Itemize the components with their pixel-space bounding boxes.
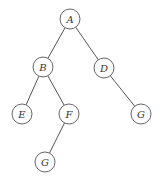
node-d: D <box>94 58 114 78</box>
node-e: E <box>12 104 32 124</box>
node-label: E <box>17 109 26 120</box>
node-label: F <box>65 109 74 120</box>
edge-d-g1 <box>110 76 134 106</box>
node-label: B <box>38 62 46 73</box>
tree-diagram: ABDEFGG <box>0 0 162 181</box>
edge-a-d <box>76 27 99 60</box>
edge-b-e <box>26 76 39 105</box>
node-label: A <box>65 14 73 25</box>
edge-f-g2 <box>49 123 64 153</box>
node-g1: G <box>131 104 151 124</box>
node-g2: G <box>35 152 55 172</box>
node-f: F <box>59 104 79 124</box>
node-label: G <box>41 157 49 168</box>
node-label: G <box>137 109 145 120</box>
node-a: A <box>60 9 80 29</box>
node-label: D <box>99 63 108 74</box>
edge-b-f <box>48 76 64 105</box>
node-b: B <box>33 57 53 77</box>
tree-edges <box>26 27 135 153</box>
edge-a-b <box>48 28 65 59</box>
